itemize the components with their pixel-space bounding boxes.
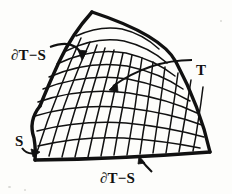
label-region-t: T [196,63,206,78]
grid-radial-11 [166,73,178,153]
scan-speck [8,186,11,188]
grid-radial-5 [88,50,114,157]
grid-arc-1 [38,138,200,148]
figure-container: ∂T−S T S ∂T−S [0,0,232,194]
grid-arc-2 [37,122,204,137]
label-boundary-bottom: ∂T−S [100,171,135,186]
grid-radial-10 [153,67,165,153]
arrow-t-head [109,82,118,92]
grid-group [35,28,204,157]
diagram-canvas [0,0,232,194]
scan-speck [24,189,26,191]
boundary-bottom [35,152,210,160]
label-boundary-top-left: ∂T−S [11,48,46,63]
label-arc-s: S [15,134,24,149]
scan-speck [220,20,222,22]
grid-radial-6 [101,53,123,156]
